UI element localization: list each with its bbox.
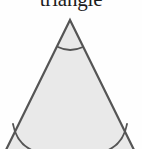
- triangle-diagram: [0, 0, 142, 149]
- equilateral-triangle-shape: [3, 20, 137, 149]
- triangle-figure: triangle: [0, 0, 142, 149]
